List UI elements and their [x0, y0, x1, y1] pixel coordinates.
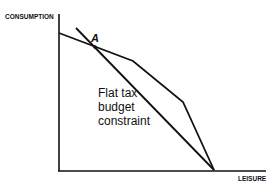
point-a-marker — [93, 45, 97, 49]
flat-tax-label-line2: budget — [98, 100, 135, 114]
budget-constraint-chart: A CONSUMPTION LEISURE Flat tax budget co… — [0, 0, 277, 189]
x-axis-label: LEISURE — [238, 175, 267, 182]
point-a-label: A — [90, 32, 99, 44]
kinked-budget-line — [59, 33, 214, 170]
flat-tax-budget-line — [76, 28, 214, 170]
flat-tax-label-line1: Flat tax — [98, 86, 137, 100]
y-axis-label: CONSUMPTION — [5, 13, 54, 20]
flat-tax-label-line3: constraint — [98, 114, 151, 128]
